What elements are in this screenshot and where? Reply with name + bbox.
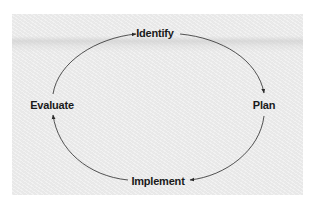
node-evaluate: Evaluate	[30, 100, 74, 111]
node-plan: Plan	[253, 100, 275, 111]
arrow-evaluate-to-identify	[53, 34, 136, 94]
arrow-plan-to-implement	[190, 116, 264, 180]
arrow-identify-to-plan	[180, 34, 264, 93]
arrow-implement-to-evaluate	[53, 115, 128, 180]
node-implement: Implement	[131, 176, 184, 187]
node-identify: Identify	[136, 28, 174, 39]
